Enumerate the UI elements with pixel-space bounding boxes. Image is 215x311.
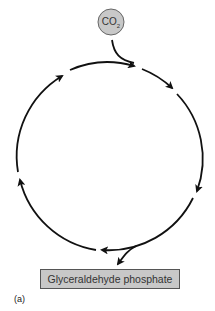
cycle-arrow-3	[177, 94, 203, 191]
cycle-arrow-2	[142, 69, 172, 88]
co2-label: CO2	[99, 12, 123, 32]
calvin-cycle-diagram	[0, 0, 215, 311]
product-label: Glyceraldehyde phosphate	[48, 273, 173, 285]
cycle-ring	[17, 40, 203, 264]
product-box: Glyceraldehyde phosphate	[40, 269, 180, 289]
cycle-arrow-6	[17, 76, 62, 172]
cycle-arrow-5	[20, 180, 96, 250]
cycle-arrow-1	[70, 62, 134, 70]
co2-input-arrow	[112, 40, 134, 63]
panel-label: (a)	[14, 294, 25, 304]
cycle-arrow-4	[102, 198, 193, 250]
